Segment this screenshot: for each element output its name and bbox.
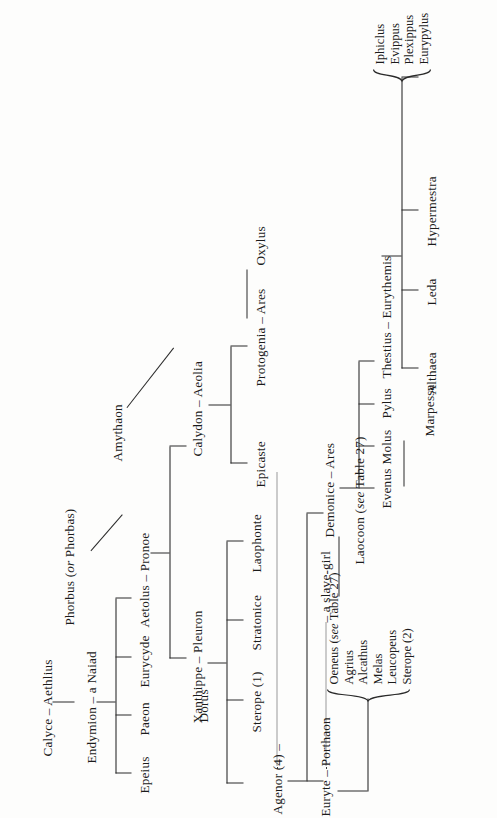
tick-protogenia <box>230 345 247 346</box>
node-eurycyde: Eurycyde <box>137 635 150 687</box>
tick-althaea <box>401 367 418 368</box>
connector-porthaon-brace-h <box>367 698 368 791</box>
oeneus-see: see <box>326 623 340 639</box>
list-porthaon-children: Oeneus (see Table 27) Agrius Alcathus Me… <box>326 572 414 684</box>
list-item: Agrius <box>341 572 356 684</box>
genealogy-diagram: Calyce – Aethlius Endymion – a Naiad Epe… <box>0 0 497 818</box>
node-evenus: Evenus <box>379 468 392 508</box>
tick-eurycyde <box>115 656 131 657</box>
brace-porthaon-children <box>326 688 410 702</box>
node-epicaste: Epicaste <box>253 441 266 487</box>
node-euryte-porthaon: Euryte – Porthaon <box>318 717 331 816</box>
tick-aetolus <box>115 597 131 598</box>
list-item: Plexippus <box>401 12 416 64</box>
node-phorbus-pre: Phorbus ( <box>61 572 76 625</box>
node-amythaon: Amythaon <box>110 404 123 461</box>
node-aetolus-pronoe: Aetolus – Pronoe <box>137 532 150 627</box>
connector-porthaon-brace <box>337 790 367 791</box>
list-item: Alcathus <box>355 572 370 684</box>
tick-sterope1 <box>226 699 243 700</box>
tick-epeius <box>115 772 131 773</box>
sibling-bar-calydon-children <box>230 346 231 463</box>
node-paeon: Paeon <box>137 702 150 735</box>
connector-endymion-down <box>96 701 115 702</box>
list-item: Oeneus (see Table 27) <box>326 572 341 684</box>
node-althaea: Althaea <box>424 352 437 394</box>
connector-xanthippe-down <box>207 662 226 663</box>
node-agenor: Agenor (4) – <box>270 743 283 814</box>
table-page: Calyce – Aethlius Endymion – a Naiad Epe… <box>0 0 497 818</box>
tick-epicaste <box>230 462 247 463</box>
node-laocoon-pre: Laocoon ( <box>351 508 366 564</box>
node-endymion-naiad: Endymion – a Naiad <box>84 651 97 763</box>
node-molus: Molus <box>379 429 392 464</box>
connector-protogenia-oxylus <box>246 269 247 318</box>
tick-xanthippe <box>169 657 186 658</box>
list-item: Iphiclus <box>372 12 387 64</box>
tick-laophonte <box>226 540 243 541</box>
sibling-bar-pleuron-children <box>226 541 227 783</box>
node-phorbus-or: or <box>61 560 76 572</box>
node-epeius: Epeius <box>137 756 150 793</box>
node-laocoon-see: see <box>351 491 366 508</box>
sibling-bar-endymion-children <box>115 598 116 773</box>
tick-stratonice <box>226 619 243 620</box>
tick-paeon <box>115 714 131 715</box>
tick-agenor <box>226 782 243 783</box>
node-sterope-1: Sterope (1) <box>249 671 262 732</box>
sibling-bar-agenor-children <box>306 513 307 781</box>
node-xanthippe-pleuron: Xanthippe – Pleuron <box>190 610 203 723</box>
tick-demonice <box>306 512 323 513</box>
connector-phorbus-pronoe <box>90 514 122 551</box>
node-hypermestra: Hypermestra <box>424 176 437 246</box>
node-demonice-ares: Demonice – Ares <box>322 442 335 537</box>
tick-leda <box>401 289 418 290</box>
node-calyce-aethlius: Calyce – Aethlius <box>40 659 53 756</box>
node-stratonice: Stratonice <box>249 595 262 650</box>
node-oxylus: Oxylus <box>253 226 266 265</box>
node-leda: Leda <box>424 278 437 305</box>
node-laocoon-post: Table 27) <box>351 436 366 491</box>
connector-evenus-marpessa <box>403 440 404 486</box>
node-laocoon: Laocoon (see Table 27) <box>352 436 365 564</box>
list-thestius-sons: Iphiclus Evippus Plexippus Eurypylus <box>372 12 430 64</box>
connector-aetolus-down <box>150 552 169 553</box>
node-thestius-eurythemis: Thestius – Eurythemis <box>379 255 392 378</box>
sibling-bar-thestius-children <box>401 77 402 368</box>
node-pylus: Pylus <box>379 388 392 418</box>
brace-thestius-sons <box>372 68 431 82</box>
node-laophonte: Laophonte <box>249 514 262 572</box>
list-item: Leucopeus <box>384 572 399 684</box>
node-phorbus-alt: Phorbas) <box>61 508 76 560</box>
list-item: Melas <box>370 572 385 684</box>
node-phorbus: Phorbus (or Phorbas) <box>62 508 75 625</box>
dotted-agenor-epicaste <box>276 472 277 768</box>
list-item: Eurypylus <box>416 12 431 64</box>
sibling-bar-aetolus-children <box>169 446 170 658</box>
node-protogenia-ares: Protogenia – Ares <box>253 288 266 386</box>
connector-agenor-down <box>287 780 306 781</box>
tick-pylus <box>358 403 374 404</box>
tick-thestius <box>358 360 374 361</box>
connector-calyce-endymion <box>52 701 74 702</box>
connector-calydon-down <box>208 404 230 405</box>
tick-calydon <box>169 445 186 446</box>
oeneus-post: Table 27) <box>326 572 340 623</box>
tick-hypermestra <box>401 209 418 210</box>
list-item: Evippus <box>387 12 402 64</box>
list-item: Sterope (2) <box>399 572 414 684</box>
connector-amythaon <box>126 347 174 408</box>
oeneus-pre: Oeneus ( <box>326 639 340 684</box>
node-calydon-aeolia: Calydon – Aeolia <box>190 361 203 457</box>
